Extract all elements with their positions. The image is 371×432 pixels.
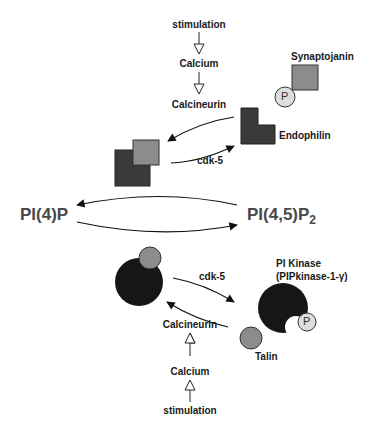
- talin-shape: [240, 327, 262, 349]
- open-arrow-icon: [194, 32, 204, 54]
- pi45p2-subscript: 2: [309, 213, 316, 227]
- pi4p-label: PI(4)P: [20, 206, 68, 223]
- pi45p2-label: PI(4,5)P2: [247, 206, 316, 226]
- talin-label: Talin: [255, 352, 278, 362]
- open-arrow-icon: [185, 333, 195, 356]
- phospho-label-top: P: [281, 91, 288, 102]
- open-arrow-icon: [194, 72, 204, 94]
- synaptojanin-label: Synaptojanin: [291, 52, 354, 62]
- pi-kinase-sublabel: (PIPkinase-1-γ): [276, 272, 348, 282]
- dephosphorylation-arrow: [77, 197, 237, 206]
- dissociation-arrow: [168, 117, 234, 141]
- endophilin-shape: [241, 108, 275, 144]
- synaptojanin-shape: [292, 65, 318, 90]
- phosphorylation-arrow: [77, 222, 237, 232]
- endophilin-label: Endophilin: [279, 131, 331, 141]
- calcineurin-label-top: Calcineurin: [172, 100, 226, 110]
- calcium-label-top: Calcium: [180, 59, 219, 69]
- stimulation-label-top: stimulation: [172, 20, 225, 30]
- cdk5-label-bottom: cdk-5: [199, 272, 225, 282]
- open-arrow-icon: [185, 380, 195, 402]
- cdk5-label-top: cdk-5: [197, 156, 223, 166]
- synaptojanin-complex-shape: [133, 140, 159, 165]
- talin-complex-shape: [139, 247, 161, 269]
- pi-kinase-label: PI Kinase: [276, 259, 321, 269]
- calcineurin-label-bottom: Calcineurin: [163, 320, 217, 330]
- phospho-label-bottom: P: [303, 316, 310, 327]
- pi45p2-main: PI(4,5)P: [247, 205, 309, 224]
- stimulation-label-bottom: stimulation: [163, 406, 216, 416]
- calcium-label-bottom: Calcium: [171, 367, 210, 377]
